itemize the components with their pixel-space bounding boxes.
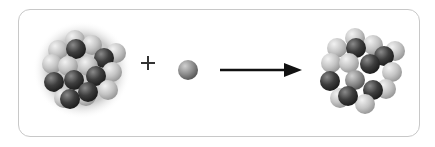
compound-nucleus (320, 28, 405, 114)
target-nucleus (33, 21, 131, 119)
reaction-diagram (0, 0, 435, 147)
neutron-particle (178, 60, 198, 80)
reaction-arrow (220, 63, 302, 77)
plus-sign (141, 56, 155, 70)
